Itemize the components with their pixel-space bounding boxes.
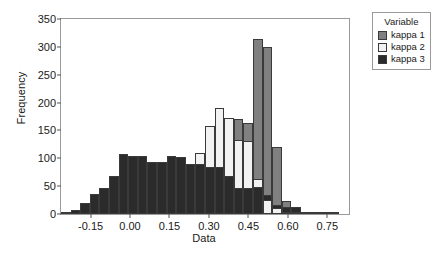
histogram-bar: [186, 164, 196, 214]
legend-item: kappa 3: [378, 53, 425, 65]
histogram-bar: [272, 208, 282, 214]
histogram-bar: [71, 210, 81, 214]
histogram-bar: [119, 154, 129, 214]
legend-item-label: kappa 2: [391, 41, 425, 53]
x-tick-mark: [90, 214, 91, 218]
x-tick-mark: [327, 214, 328, 218]
histogram-bar: [311, 212, 321, 214]
legend-item-label: kappa 1: [391, 29, 425, 41]
histogram-bar: [61, 212, 71, 214]
x-tick-mark: [208, 214, 209, 218]
histogram-bar: [109, 176, 119, 214]
y-tick-mark: [57, 158, 61, 159]
histogram-bar: [195, 164, 205, 214]
histogram-bar: [138, 156, 148, 214]
x-tick-mark: [169, 214, 170, 218]
histogram-bar: [282, 212, 292, 214]
histogram-bar: [243, 188, 253, 214]
y-tick-mark: [57, 46, 61, 47]
legend-item: kappa 2: [378, 41, 425, 53]
histogram-figure: Frequency 050100150200250300350-0.150.00…: [0, 0, 447, 254]
histogram-bar: [215, 167, 225, 214]
histogram-bar: [147, 162, 157, 214]
y-tick-mark: [57, 102, 61, 103]
histogram-bar: [128, 156, 138, 215]
histogram-bar: [263, 200, 273, 214]
legend-entries: kappa 1kappa 2kappa 3: [378, 29, 425, 65]
histogram-bar: [234, 188, 244, 214]
x-tick-mark: [287, 214, 288, 218]
histogram-bar: [272, 147, 282, 214]
x-tick-mark: [130, 214, 131, 218]
histogram-bar: [301, 212, 311, 214]
histogram-bar: [320, 212, 330, 214]
histogram-bar: [205, 167, 215, 214]
histogram-bar: [291, 212, 301, 214]
x-axis-label: Data: [60, 232, 348, 244]
histogram-bar: [176, 157, 186, 214]
y-tick-mark: [57, 19, 61, 20]
legend-swatch-icon: [378, 43, 387, 52]
y-tick-mark: [57, 74, 61, 75]
legend-swatch-icon: [378, 31, 387, 40]
histogram-bar: [90, 194, 100, 214]
legend-swatch-icon: [378, 55, 387, 64]
histogram-bar: [80, 203, 90, 214]
x-tick-mark: [248, 214, 249, 218]
legend-title: Variable: [378, 16, 425, 28]
y-tick-mark: [57, 130, 61, 131]
bar-layer: [61, 19, 349, 214]
histogram-bar: [330, 212, 340, 214]
histogram-bar: [167, 156, 177, 214]
histogram-bar: [263, 47, 273, 214]
plot-area: 050100150200250300350-0.150.000.150.300.…: [60, 18, 350, 215]
legend: Variable kappa 1kappa 2kappa 3: [372, 12, 431, 70]
y-axis-label: Frequency: [15, 53, 27, 143]
histogram-bar: [224, 176, 234, 214]
histogram-bar: [99, 188, 109, 214]
legend-item: kappa 1: [378, 29, 425, 41]
histogram-bar: [253, 187, 263, 214]
y-tick-mark: [57, 186, 61, 187]
histogram-bar: [157, 162, 167, 214]
legend-item-label: kappa 3: [391, 53, 425, 65]
